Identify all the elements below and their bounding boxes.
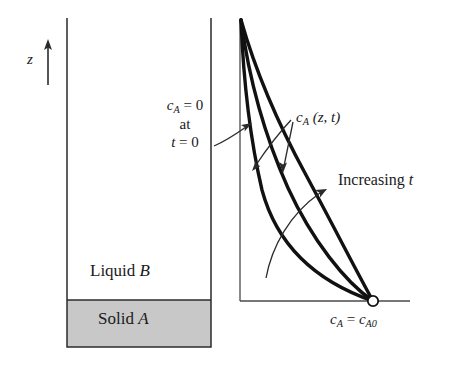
equals-sign-2: = (179, 134, 187, 150)
equals-sign-1: = (183, 97, 191, 113)
boundary-condition-label: cA = cA0 (330, 312, 377, 330)
concentration-function-label: cA (z, t) (296, 110, 340, 128)
initial-condition-line1: cA = 0 (148, 97, 222, 116)
ca-zt-subscript: A (303, 116, 309, 127)
concentration-curves (241, 20, 373, 301)
increasing-t-label: Increasing t (338, 172, 413, 189)
initial-condition-line2: at (148, 116, 222, 134)
initial-condition-line3: t = 0 (148, 134, 222, 152)
z-axis-label: z (27, 52, 33, 68)
bc-equals: = (347, 311, 355, 327)
t-value: 0 (191, 134, 199, 150)
ca-zt-argument: (z, t) (313, 109, 341, 125)
diffusion-figure: z Liquid B Solid A cA = 0 at t = 0 cA (z… (0, 0, 466, 370)
initial-condition-label: cA = 0 at t = 0 (148, 97, 222, 151)
c-subscript: A (173, 104, 179, 115)
t-symbol: t (171, 134, 175, 150)
bc-rhs-subscript: A0 (366, 318, 377, 329)
solid-a-label: Solid A (98, 310, 149, 328)
curve-t3 (241, 20, 373, 301)
liquid-b-text: Liquid B (90, 261, 150, 280)
curve-t2 (241, 20, 373, 301)
solid-a-text: Solid A (98, 309, 149, 328)
increasing-text: Increasing (338, 171, 405, 188)
bc-lhs-subscript: A (337, 318, 343, 329)
ca-zt-symbol: c (296, 109, 303, 125)
curve-t1 (241, 20, 373, 301)
c-value: 0 (196, 97, 204, 113)
bc-rhs-symbol: c (359, 311, 366, 327)
vessel-group (67, 18, 211, 347)
surface-concentration-marker (368, 296, 378, 306)
liquid-b-label: Liquid B (90, 262, 150, 280)
vessel-walls (67, 18, 211, 347)
z-axis-arrow (44, 39, 52, 85)
bc-lhs-symbol: c (330, 311, 337, 327)
increasing-variable: t (409, 171, 413, 188)
plot-axes (240, 20, 410, 301)
